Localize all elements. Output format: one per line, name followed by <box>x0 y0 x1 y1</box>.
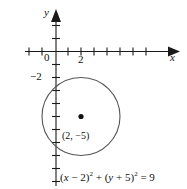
equation-equals: = <box>138 171 150 183</box>
y-axis-label: y <box>44 7 49 18</box>
circle-equation: (x − 2)2 + (y + 5)2 = 9 <box>60 172 155 183</box>
circle-graph-figure: y x 0 2 −2 (2, −5) (x − 2)2 + (y + 5)2 =… <box>0 0 187 189</box>
graph-canvas <box>0 0 187 189</box>
x-tick-label-2: 2 <box>78 54 84 65</box>
y-tick-label-minus-2: −2 <box>30 71 42 82</box>
equation-plus-2: + <box>113 171 125 183</box>
center-point-marker <box>78 114 83 119</box>
equation-minus: − <box>69 171 81 183</box>
origin-tick-label: 0 <box>44 52 50 63</box>
equation-rhs: 9 <box>149 171 155 183</box>
y-axis-arrowhead <box>51 9 61 22</box>
x-axis-label: x <box>170 52 175 63</box>
y-axis-group <box>52 14 60 186</box>
equation-plus: + <box>93 171 105 183</box>
center-point-label: (2, −5) <box>62 131 89 141</box>
